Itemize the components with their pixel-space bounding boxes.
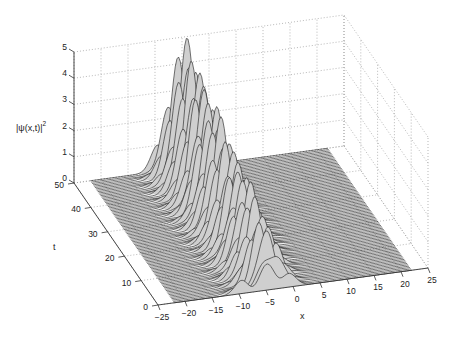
svg-text:3: 3 <box>62 94 67 104</box>
svg-text:−5: −5 <box>265 297 275 307</box>
svg-text:10: 10 <box>346 286 356 296</box>
svg-text:2: 2 <box>62 121 67 131</box>
svg-text:40: 40 <box>71 204 81 214</box>
svg-text:0: 0 <box>295 294 300 304</box>
svg-text:−10: −10 <box>236 301 251 311</box>
surface-mesh <box>90 38 412 302</box>
t-axis-label: t <box>53 242 56 252</box>
svg-text:1: 1 <box>62 147 67 157</box>
x-axis-label: x <box>300 311 305 321</box>
svg-text:4: 4 <box>62 68 67 78</box>
svg-text:−25: −25 <box>155 312 170 322</box>
svg-text:25: 25 <box>427 275 437 285</box>
svg-text:20: 20 <box>105 253 115 263</box>
svg-text:10: 10 <box>122 278 132 288</box>
svg-text:5: 5 <box>62 42 67 52</box>
svg-text:0: 0 <box>143 302 148 312</box>
svg-text:20: 20 <box>400 279 410 289</box>
svg-text:−15: −15 <box>209 305 224 315</box>
svg-text:5: 5 <box>322 290 327 300</box>
svg-text:0: 0 <box>62 173 67 183</box>
svg-text:30: 30 <box>88 229 98 239</box>
surface-plot: −25−20−15−10−505101520250102030405001234… <box>0 0 463 341</box>
z-axis-label: |ψ(x,t)|2 <box>16 120 47 133</box>
svg-text:15: 15 <box>373 282 383 292</box>
svg-text:−20: −20 <box>182 308 197 318</box>
